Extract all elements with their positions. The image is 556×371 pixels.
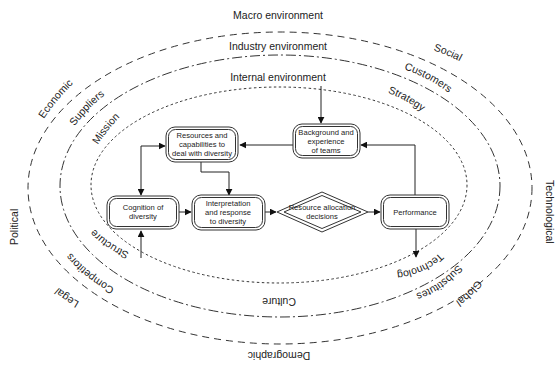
svg-text:Resources andcapabilities tode: Resources andcapabilities todeal with di… bbox=[172, 131, 232, 158]
label-competitors: Competitors bbox=[63, 251, 115, 296]
node-cognition-of-diversity: Cognition ofdiversity bbox=[107, 196, 179, 229]
industry-environment-title: Industry environment bbox=[229, 40, 327, 52]
label-social: Social bbox=[433, 41, 465, 63]
internal-environment-ring bbox=[91, 87, 467, 283]
label-economic: Economic bbox=[36, 76, 75, 120]
macro-environment-title: Macro environment bbox=[233, 9, 323, 21]
label-global: Global bbox=[454, 279, 485, 310]
label-culture: Culture bbox=[262, 296, 296, 308]
node-resource-allocation-decision: Resource allocationdecisions bbox=[277, 192, 368, 232]
node-background-experience: Background andexperienceof teams bbox=[293, 124, 360, 158]
node-resources-capabilities: Resources andcapabilities todeal with di… bbox=[166, 127, 238, 162]
arrow-cognition-resources-bidirectional bbox=[141, 146, 165, 195]
label-demographic: Demographic bbox=[248, 350, 310, 362]
label-mission: Mission bbox=[89, 110, 121, 146]
label-strategy: Strategy bbox=[387, 84, 428, 114]
node-performance: Performance bbox=[381, 195, 449, 229]
label-legal: Legal bbox=[52, 286, 80, 311]
svg-text:Interpretationand responseto d: Interpretationand responseto diversity bbox=[205, 199, 251, 226]
arrow-resources-to-interpretation bbox=[201, 162, 229, 195]
label-political: Political bbox=[8, 209, 20, 245]
industry-environment-ring bbox=[60, 55, 500, 317]
label-suppliers: Suppliers bbox=[66, 87, 106, 127]
svg-text:Performance: Performance bbox=[393, 208, 436, 217]
internal-environment-title: Internal environment bbox=[230, 71, 326, 83]
arrow-performance-to-background bbox=[361, 145, 415, 195]
node-interpretation-response: Interpretationand responseto diversity bbox=[192, 195, 265, 230]
label-technological: Technological bbox=[544, 180, 556, 244]
label-structure: Structure bbox=[87, 227, 130, 261]
diversity-environment-diagram: Macro environment Industry environment I… bbox=[0, 0, 556, 371]
